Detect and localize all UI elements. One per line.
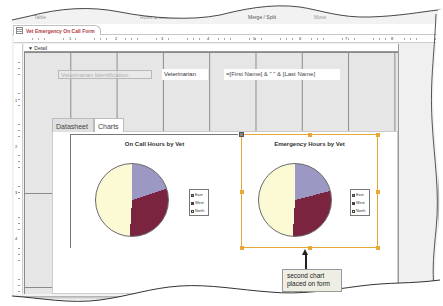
callout-text: placed on form bbox=[287, 280, 337, 288]
ribbon-group-rows-columns: Rows & Columns bbox=[140, 14, 178, 20]
resize-handle[interactable] bbox=[376, 246, 380, 250]
detail-section-label: Detail bbox=[34, 45, 47, 51]
ruler-mark: 2 bbox=[115, 36, 117, 41]
document-tab[interactable]: Vet Emergency On Call Form bbox=[13, 25, 101, 35]
ruler-mark: 2 bbox=[15, 144, 17, 149]
ribbon-group-move: Move bbox=[314, 14, 326, 20]
ruler-mark: 7 bbox=[345, 36, 347, 41]
ruler-mark: 1 bbox=[15, 98, 17, 103]
legend-label: West bbox=[195, 201, 204, 205]
pie-chart bbox=[258, 163, 332, 237]
chart-title: On Call Hours by Vet bbox=[71, 141, 238, 147]
north-swatch-icon bbox=[352, 210, 355, 213]
detail-section-header[interactable]: ▼ Detail bbox=[24, 44, 398, 52]
pie-chart bbox=[95, 163, 169, 237]
legend-label: East bbox=[356, 193, 364, 197]
document-tab-title: Vet Emergency On Call Form bbox=[26, 28, 95, 34]
legend-label: East bbox=[195, 193, 203, 197]
north-swatch-icon bbox=[191, 210, 194, 213]
resize-handle[interactable] bbox=[308, 133, 312, 137]
ribbon-group-labels: Table Rows & Columns Merge / Split Move bbox=[12, 14, 432, 24]
legend-label: North bbox=[356, 209, 365, 213]
form-icon bbox=[16, 27, 23, 34]
form-background-area bbox=[398, 44, 438, 294]
veterinarian-name-textbox[interactable]: =[First Name] & " " & [Last Name] bbox=[224, 69, 340, 80]
emergency-hours-chart[interactable]: Emergency Hours by Vet East West North bbox=[241, 134, 378, 248]
resize-handle[interactable] bbox=[308, 246, 312, 250]
vertical-ruler[interactable]: 1 2 3 4 bbox=[14, 44, 23, 294]
callout-arrow-line bbox=[305, 253, 307, 270]
document-tab-bar: Vet Emergency On Call Form bbox=[12, 24, 438, 35]
chart-legend: East West North bbox=[189, 189, 209, 216]
ribbon-group-table: Table bbox=[34, 14, 46, 20]
ruler-mark: 4 bbox=[15, 236, 17, 241]
on-call-hours-chart[interactable]: On Call Hours by Vet East West North bbox=[70, 134, 238, 248]
resize-handle[interactable] bbox=[240, 246, 244, 250]
move-handle[interactable] bbox=[239, 132, 244, 137]
chart-title: Emergency Hours by Vet bbox=[242, 141, 377, 147]
west-swatch-icon bbox=[352, 202, 355, 205]
tab-charts[interactable]: Charts bbox=[94, 118, 124, 132]
ruler-mark: 4 bbox=[207, 36, 209, 41]
tab-datasheet[interactable]: Datasheet bbox=[52, 118, 94, 132]
veterinarian-label[interactable]: Veterinarian bbox=[162, 69, 208, 80]
west-swatch-icon bbox=[191, 202, 194, 205]
resize-handle[interactable] bbox=[240, 190, 244, 194]
section-expand-icon: ▼ bbox=[28, 45, 33, 51]
horizontal-ruler[interactable]: 1 2 3 4 5 6 7 8 bbox=[14, 35, 438, 43]
callout-box: second chart placed on form bbox=[282, 269, 342, 292]
resize-handle[interactable] bbox=[376, 133, 380, 137]
ribbon-group-merge-split: Merge / Split bbox=[248, 14, 276, 20]
callout-text: second chart bbox=[287, 272, 337, 280]
legend-label: West bbox=[356, 201, 365, 205]
east-swatch-icon bbox=[191, 194, 194, 197]
ruler-mark: 5 bbox=[253, 36, 255, 41]
ruler-mark: 8 bbox=[391, 36, 393, 41]
ruler-mark: 3 bbox=[161, 36, 163, 41]
east-swatch-icon bbox=[352, 194, 355, 197]
legend-label: North bbox=[195, 209, 204, 213]
chart-legend: East West North bbox=[350, 189, 370, 216]
ruler-mark: 3 bbox=[15, 190, 17, 195]
ruler-mark: 6 bbox=[299, 36, 301, 41]
ruler-mark: 1 bbox=[69, 36, 71, 41]
resize-handle[interactable] bbox=[376, 190, 380, 194]
veterinarian-identification-label[interactable]: Veterinarian Identification bbox=[58, 70, 152, 79]
